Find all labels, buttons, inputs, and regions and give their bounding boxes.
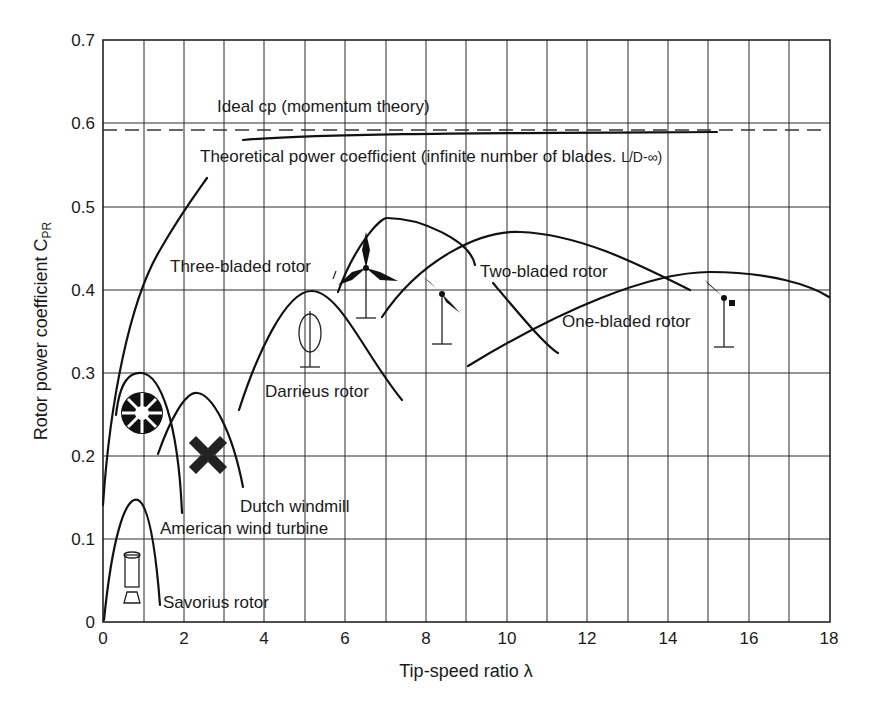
svg-text:0: 0	[98, 629, 107, 648]
darrieus-icon	[299, 311, 321, 367]
one-bladed-label: One-bladed rotor	[562, 312, 691, 331]
svg-text:0.5: 0.5	[71, 198, 95, 217]
svg-text:0.1: 0.1	[71, 530, 95, 549]
three-bladed-label: Three-bladed rotor	[170, 257, 311, 276]
two-bladed-icon	[423, 277, 460, 344]
x-axis-ticks: 0 2 4 6 8 10 12 14 16 18	[98, 629, 838, 648]
savonius-icon	[124, 552, 140, 603]
two-bladed-label: Two-bladed rotor	[480, 262, 608, 281]
three-bladed-leader	[333, 271, 336, 279]
theoretical-label: Theoretical power coefficient (infinite …	[200, 147, 662, 166]
svg-text:6: 6	[340, 629, 349, 648]
dutch-windmill-icon	[189, 436, 227, 474]
svg-text:8: 8	[421, 629, 430, 648]
svg-text:18: 18	[820, 629, 839, 648]
svg-text:0.3: 0.3	[71, 364, 95, 383]
svg-text:0.2: 0.2	[71, 447, 95, 466]
svg-text:16: 16	[740, 629, 759, 648]
savonius-curve	[104, 500, 160, 620]
svg-text:12: 12	[578, 629, 597, 648]
three-bladed-icon	[338, 232, 398, 318]
american-turbine-icon	[121, 392, 163, 434]
svg-text:10: 10	[498, 629, 517, 648]
svg-text:0.6: 0.6	[71, 114, 95, 133]
darrieus-label: Darrieus rotor	[265, 382, 369, 401]
svg-text:0.7: 0.7	[71, 31, 95, 50]
svg-text:4: 4	[259, 629, 268, 648]
dutch-windmill-label: Dutch windmill	[240, 497, 350, 516]
x-axis-title: Tip-speed ratio λ	[399, 661, 532, 681]
theoretical-curve-upper	[243, 132, 717, 140]
power-coefficient-chart: Ideal cp (momentum theory) Theoretical p…	[0, 0, 869, 708]
dutch-windmill-curve	[158, 393, 243, 487]
svg-text:2: 2	[179, 629, 188, 648]
y-axis-title: Rotor power coefficient CPR	[31, 221, 54, 440]
american-turbine-label: American wind turbine	[160, 519, 328, 538]
y-axis-ticks: 0 0.1 0.2 0.3 0.4 0.5 0.6 0.7	[71, 31, 95, 632]
svg-text:0: 0	[86, 613, 95, 632]
svg-text:14: 14	[659, 629, 678, 648]
ideal-cp-label: Ideal cp (momentum theory)	[217, 97, 430, 116]
svg-text:0.4: 0.4	[71, 281, 95, 300]
savonius-label: Savorius rotor	[163, 593, 269, 612]
